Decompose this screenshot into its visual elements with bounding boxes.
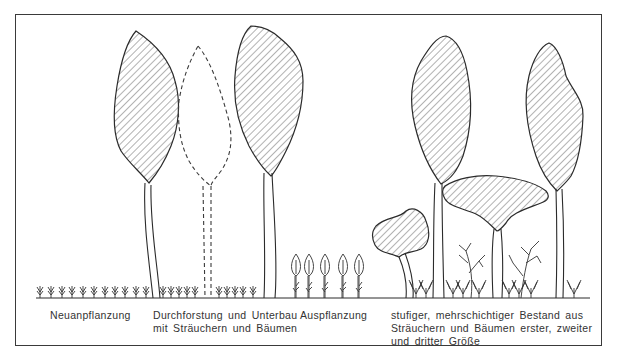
forest-stages-illustration — [16, 15, 603, 347]
tall-tree-crown — [412, 36, 471, 184]
label-line: Auspflanzung — [300, 309, 367, 322]
tree-trunk — [264, 173, 276, 298]
label-line: und dritter Größe — [391, 335, 592, 348]
diagram-frame: Neuanpflanzung Durchforstung und Unterba… — [15, 14, 602, 346]
tree-trunk — [399, 253, 413, 298]
auspflanzung-saplings — [292, 254, 364, 298]
label-line: Durchforstung und Unterbau — [153, 309, 297, 322]
label-line: Neuanpflanzung — [50, 309, 131, 322]
stage-label-durchforstung: Durchforstung und Unterbau mit Sträucher… — [153, 309, 297, 335]
tree-trunk — [556, 189, 564, 298]
tree-trunk — [492, 229, 503, 298]
label-line: mit Sträuchern und Bäumen — [153, 322, 297, 335]
dashed-removed-tree-outline — [178, 46, 230, 186]
label-line: stufiger, mehrschichtiger Bestand aus — [391, 309, 592, 322]
tall-tree-crown — [526, 43, 583, 191]
dashed-removed-trunk — [203, 186, 211, 298]
durchforstung-trees — [114, 26, 303, 298]
hatched-tree-crown — [114, 31, 178, 183]
stage-label-neuanpflanzung: Neuanpflanzung — [50, 309, 131, 322]
stage-label-stufiger-bestand: stufiger, mehrschichtiger Bestand aus St… — [391, 309, 592, 348]
tree-trunk — [145, 183, 160, 298]
stage-label-auspflanzung: Auspflanzung — [300, 309, 367, 322]
hatched-tree-crown — [235, 26, 303, 176]
small-tree-crown — [372, 209, 428, 257]
branching-shrub-icon — [509, 241, 541, 298]
neuanpflanzung-seedlings — [37, 286, 149, 298]
stufiger-bestand-trees — [372, 36, 583, 298]
tree-trunk — [433, 183, 444, 298]
label-line: Sträuchern und Bäumen erster, zweiter — [391, 322, 592, 335]
wide-tree-crown — [443, 176, 549, 231]
